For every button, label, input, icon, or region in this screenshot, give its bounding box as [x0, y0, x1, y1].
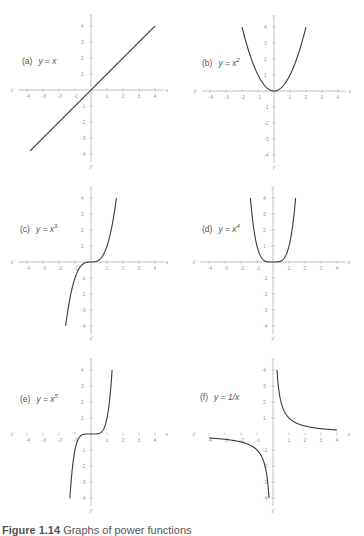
y-tick-label: 3 — [264, 40, 267, 46]
y-tick-label: -4 — [263, 495, 268, 501]
x-tick-label: 3 — [138, 93, 141, 99]
caption-text: Graphs of power functions — [63, 524, 191, 536]
x-tick-label: -4 — [26, 265, 31, 271]
x-axis-label: x — [165, 431, 168, 437]
x-tick-label: 3 — [320, 437, 323, 443]
y-tick-label: -1 — [81, 275, 86, 281]
x-tick-label: 1 — [106, 437, 109, 443]
x-tick-label: 4 — [154, 437, 157, 443]
panel-letter: (b) — [202, 58, 212, 68]
x-axis-label: x — [165, 87, 168, 93]
y-axis-label: y — [90, 12, 93, 18]
x-tick-label: 1 — [288, 437, 291, 443]
y-tick-label: -2 — [263, 291, 268, 297]
panel-a: x′xyy′-4-3-2-11234-4-3-2-11234 — [11, 12, 169, 170]
panel-letter: (c) — [20, 224, 30, 234]
y-tick-label: -4 — [81, 151, 86, 157]
y-axis-label: y — [272, 184, 275, 190]
y-tick-label: 3 — [81, 39, 84, 45]
y-tick-label: -2 — [264, 120, 269, 126]
x-tick-label: -4 — [209, 94, 214, 100]
x-tick-label: -3 — [225, 94, 230, 100]
x-tick-label: 1 — [288, 265, 291, 271]
y-axis-neg-label: y′ — [272, 507, 276, 513]
y-tick-label: -3 — [81, 307, 86, 313]
y-tick-label: 3 — [81, 211, 84, 217]
function-curve — [209, 438, 269, 498]
y-axis-neg-label: y′ — [90, 335, 94, 341]
y-tick-label: -3 — [81, 479, 86, 485]
y-tick-label: -1 — [263, 447, 268, 453]
x-tick-label: -1 — [256, 437, 261, 443]
y-tick-label: 2 — [263, 399, 266, 405]
y-tick-label: 1 — [263, 415, 266, 421]
x-tick-label: -1 — [256, 265, 261, 271]
x-axis-neg-label: x′ — [11, 259, 15, 265]
x-tick-label: -2 — [240, 265, 245, 271]
y-tick-label: 1 — [81, 243, 84, 249]
figure-caption: Figure 1.14 Graphs of power functions — [2, 524, 192, 536]
x-axis-neg-label: x′ — [11, 87, 15, 93]
y-tick-label: 1 — [81, 415, 84, 421]
x-tick-label: 4 — [336, 265, 339, 271]
x-tick-label: 4 — [337, 94, 340, 100]
x-tick-label: -2 — [58, 93, 63, 99]
x-tick-label: 3 — [321, 94, 324, 100]
panel-equation: y = x3 — [36, 224, 58, 234]
y-tick-label: 2 — [81, 55, 84, 61]
panel-label-f: (f)y = 1/x — [200, 392, 239, 402]
x-tick-label: 1 — [289, 94, 292, 100]
x-axis-label: x — [165, 259, 168, 265]
x-tick-label: 2 — [122, 93, 125, 99]
y-tick-label: 4 — [81, 367, 84, 373]
x-tick-label: 2 — [122, 437, 125, 443]
function-curve — [277, 370, 337, 430]
x-tick-label: 4 — [154, 93, 157, 99]
panel-letter: (e) — [20, 394, 30, 404]
x-tick-label: -3 — [42, 265, 47, 271]
x-tick-label: 2 — [305, 94, 308, 100]
y-tick-label: -2 — [81, 291, 86, 297]
y-tick-label: 3 — [263, 211, 266, 217]
y-tick-label: -4 — [263, 323, 268, 329]
x-axis-label: x — [347, 259, 350, 265]
y-tick-label: -1 — [264, 104, 269, 110]
y-axis-label: y — [90, 184, 93, 190]
x-tick-label: -1 — [74, 265, 79, 271]
x-tick-label: -3 — [42, 93, 47, 99]
x-tick-label: 2 — [122, 265, 125, 271]
y-tick-label: 2 — [81, 227, 84, 233]
x-axis-label: x — [347, 431, 350, 437]
y-axis-neg-label: y′ — [273, 164, 277, 170]
panel-label-a: (a)y = x — [22, 56, 57, 66]
panel-equation: y = x2 — [218, 58, 240, 68]
panel-label-c: (c)y = x3 — [20, 223, 57, 234]
y-tick-label: 4 — [263, 195, 266, 201]
x-axis-neg-label: x′ — [193, 431, 197, 437]
x-axis-neg-label: x′ — [194, 88, 198, 94]
x-tick-label: 1 — [106, 265, 109, 271]
y-tick-label: 1 — [263, 243, 266, 249]
x-tick-label: -2 — [58, 265, 63, 271]
panel-equation: y = x5 — [36, 394, 58, 404]
y-tick-label: -3 — [81, 135, 86, 141]
x-tick-label: 2 — [304, 265, 307, 271]
x-axis-neg-label: x′ — [11, 431, 15, 437]
y-tick-label: -1 — [81, 103, 86, 109]
y-tick-label: 2 — [263, 227, 266, 233]
function-curve — [30, 26, 155, 151]
y-tick-label: 2 — [264, 56, 267, 62]
x-tick-label: 4 — [336, 437, 339, 443]
x-tick-label: -3 — [42, 437, 47, 443]
y-tick-label: -2 — [81, 119, 86, 125]
panel-c: x′xyy′-4-3-2-11234-4-3-2-11234 — [11, 184, 169, 342]
y-axis-neg-label: y′ — [90, 507, 94, 513]
y-tick-label: 3 — [263, 383, 266, 389]
y-tick-label: -1 — [81, 447, 86, 453]
y-axis-label: y — [90, 356, 93, 362]
y-tick-label: -3 — [264, 136, 269, 142]
x-axis-label: x — [348, 88, 351, 94]
panel-letter: (f) — [200, 392, 208, 402]
